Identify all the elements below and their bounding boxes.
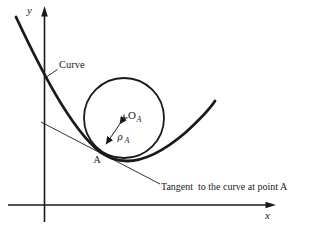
- curve: [16, 17, 215, 161]
- circle-center-subscript: A: [136, 115, 142, 124]
- y-axis-label: y: [26, 4, 32, 16]
- diagram-canvas: y x O A ρ A A Curve Tangent to the curve…: [0, 0, 312, 226]
- circle-center-marker-icon: [121, 115, 128, 122]
- tangent-label: Tangent to the curve at point A: [161, 181, 288, 192]
- diagram-osculating-circle: y x O A ρ A A Curve Tangent to the curve…: [0, 0, 312, 226]
- x-axis-label: x: [264, 209, 270, 221]
- circle-center-label: O: [128, 109, 136, 121]
- x-axis-arrowhead-icon: [266, 202, 277, 209]
- curve-label-leader: [45, 70, 58, 79]
- y-axis-arrowhead-icon: [41, 6, 48, 17]
- radius-subscript: A: [124, 136, 130, 145]
- point-a-label: A: [94, 154, 102, 165]
- curve-label: Curve: [59, 59, 85, 70]
- radius-label: ρ: [117, 130, 123, 142]
